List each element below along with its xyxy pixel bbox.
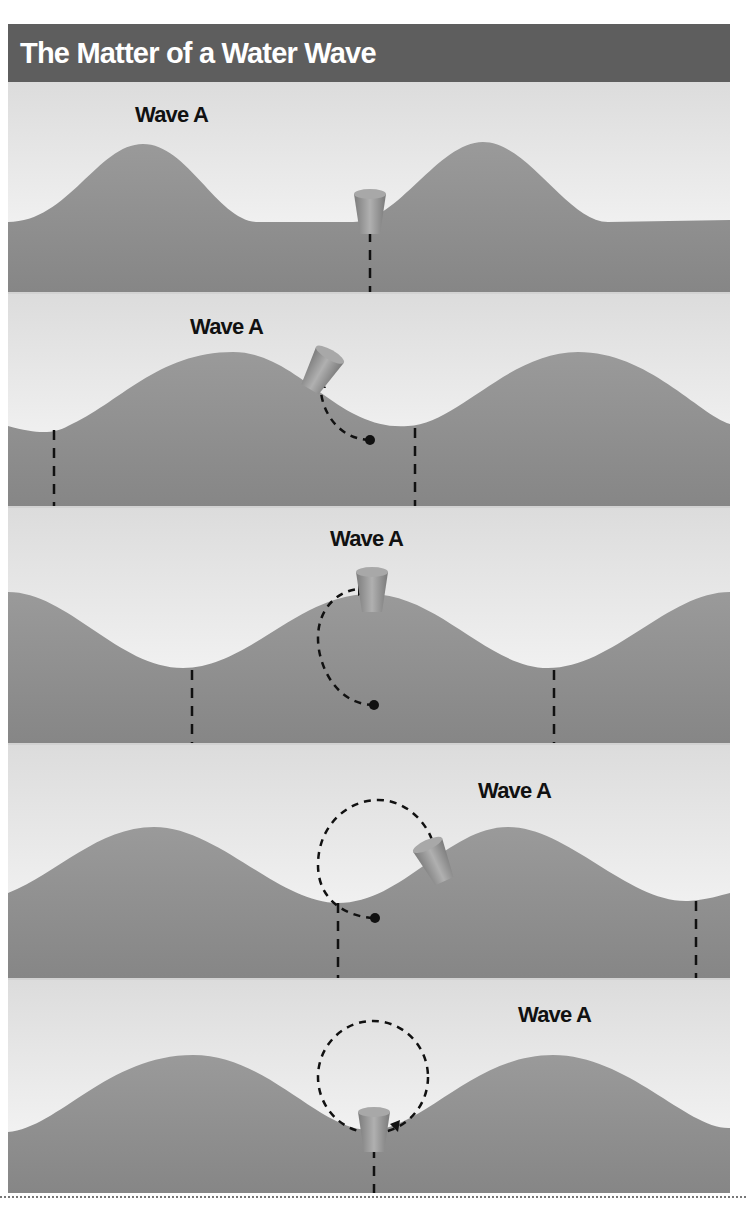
wave-label: Wave A: [518, 1002, 591, 1028]
diagram-frame: The Matter of a Water Wave: [8, 24, 730, 1193]
wave-scene-1: [8, 82, 730, 292]
wave-scene-4: [8, 745, 730, 978]
diagram-title: The Matter of a Water Wave: [20, 37, 376, 70]
wave-scene-5: [8, 980, 730, 1193]
origin-dot: [370, 913, 380, 923]
wave-panel-3: Wave A: [8, 508, 730, 745]
origin-dot: [369, 700, 379, 710]
wave-label: Wave A: [478, 778, 551, 804]
wave-panel-2: Wave A: [8, 294, 730, 508]
wave-label: Wave A: [330, 526, 403, 552]
wave-label: Wave A: [190, 314, 263, 340]
title-bar: The Matter of a Water Wave: [8, 24, 730, 82]
wave-panel-5: Wave A: [8, 980, 730, 1193]
wave-scene-2: [8, 294, 730, 506]
wave-panel-4: Wave A: [8, 745, 730, 980]
wave-panel-1: Wave A: [8, 82, 730, 294]
dotted-divider: [0, 1196, 746, 1198]
wave-label: Wave A: [135, 102, 208, 128]
origin-dot: [365, 435, 375, 445]
